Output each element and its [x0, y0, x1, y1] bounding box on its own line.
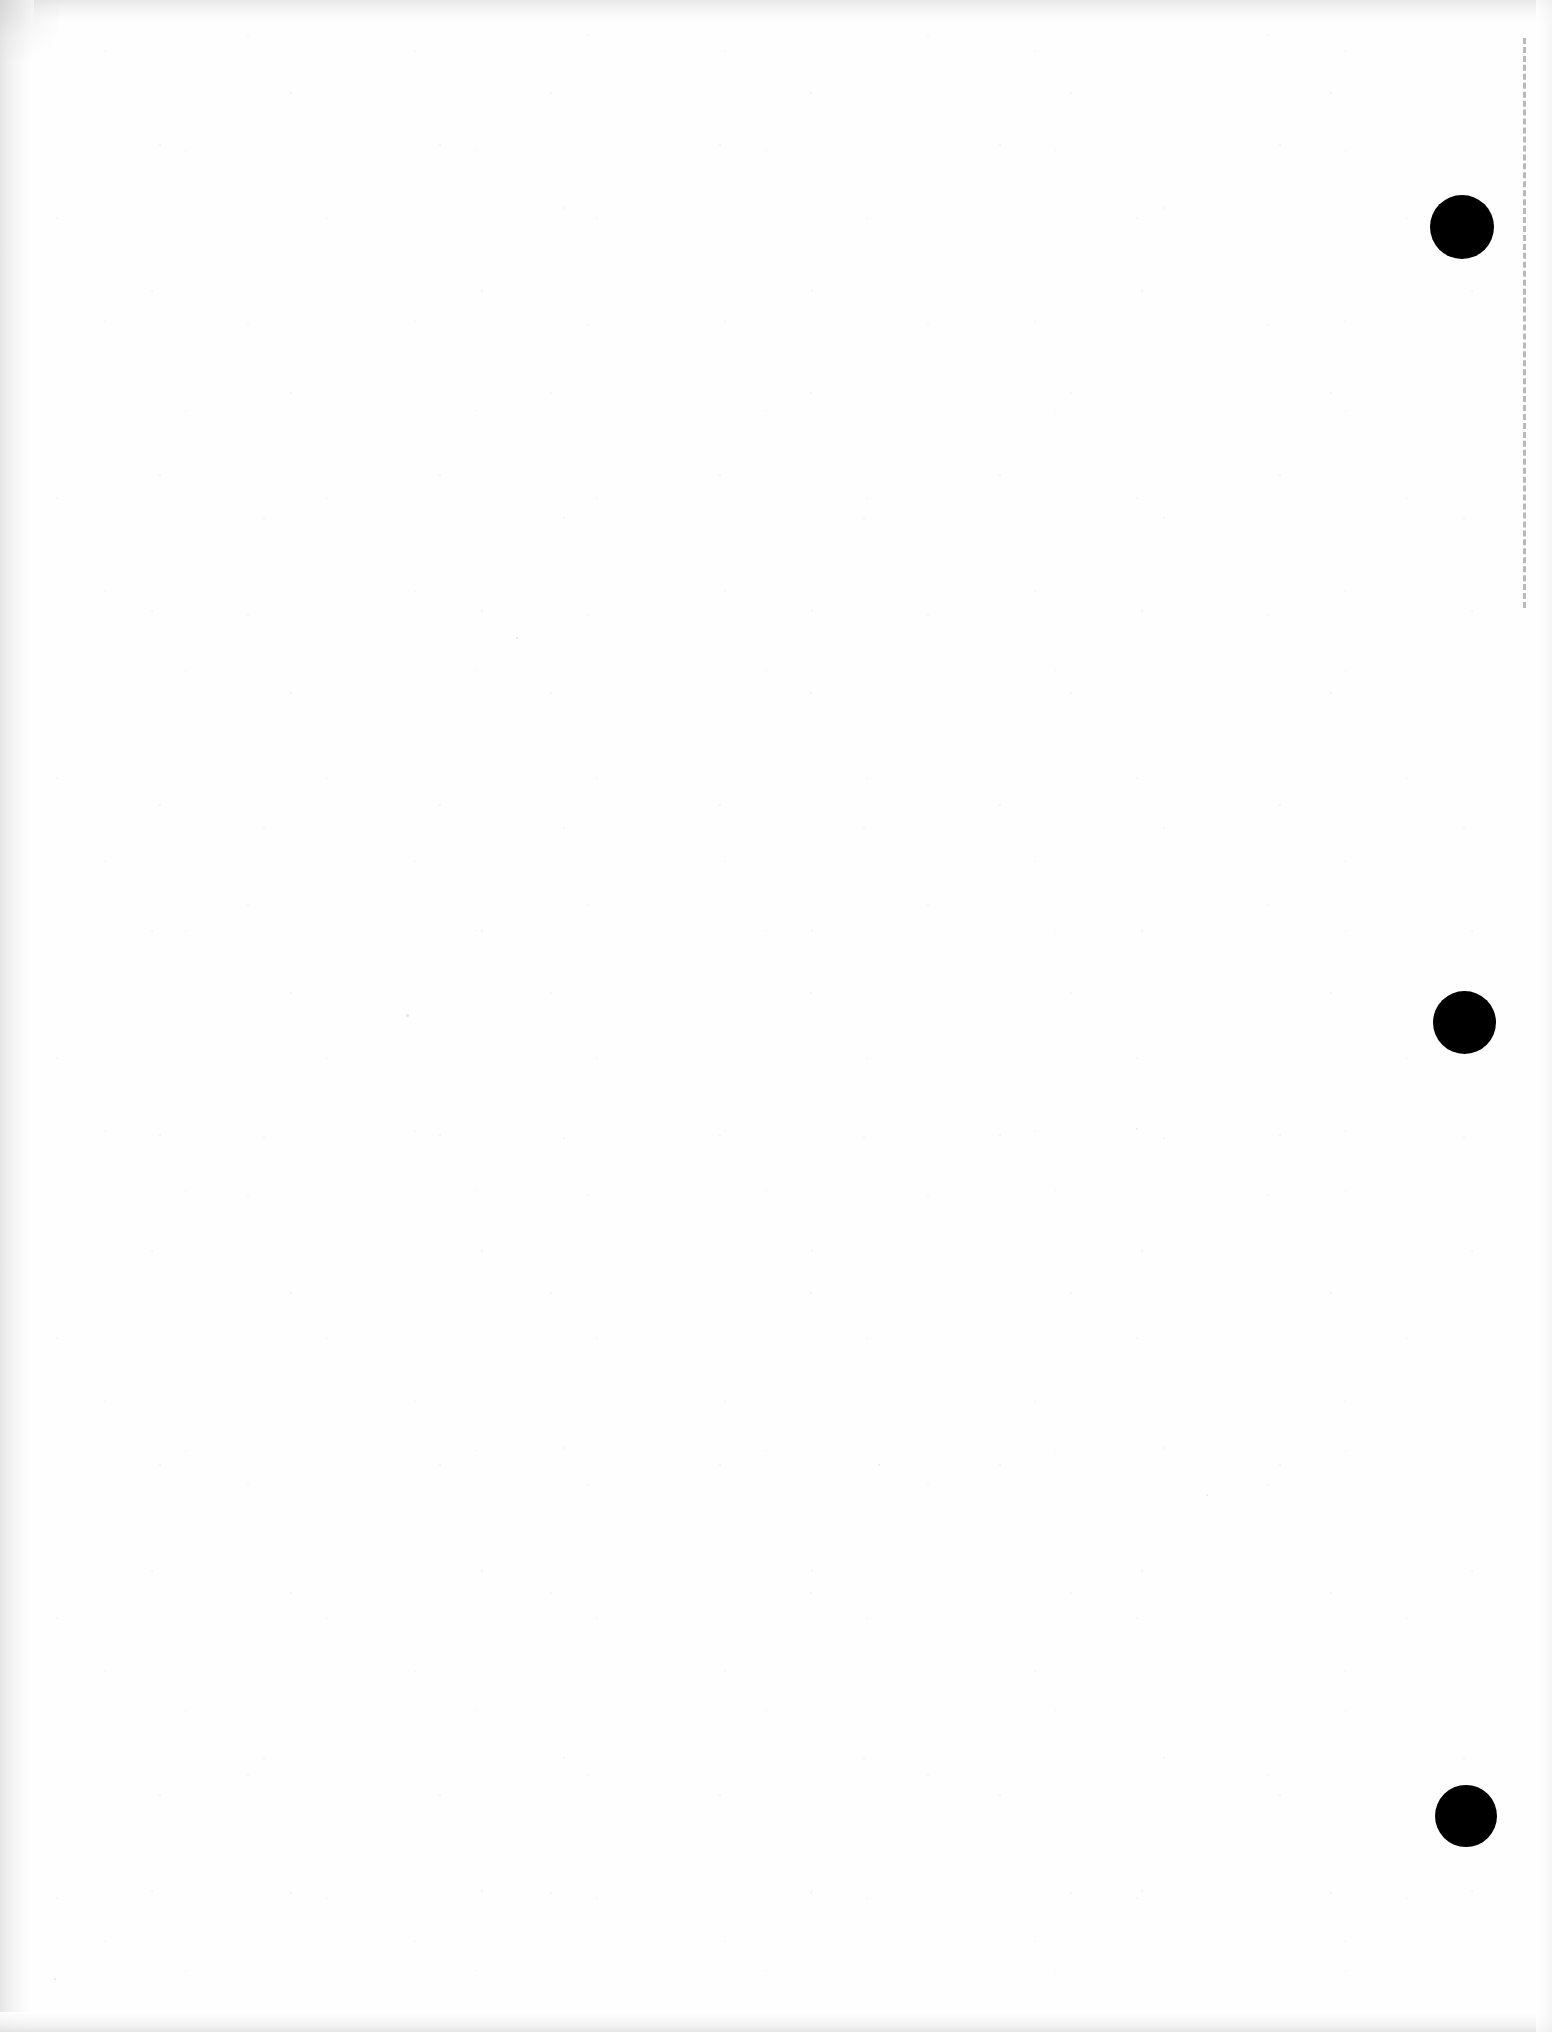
middle-punch-hole-mark — [1433, 991, 1496, 1054]
scan-edge-shadow-right — [1536, 0, 1552, 2032]
scan-edge-shadow-bottom — [0, 2012, 1552, 2032]
scan-edge-shadow-top — [0, 0, 1552, 26]
scanned-document-page — [0, 0, 1552, 2032]
page-body-text — [60, 60, 1440, 1960]
scan-speck — [54, 1978, 56, 1980]
scan-edge-shadow-left — [0, 0, 34, 2032]
scan-edge-corner-top-left — [0, 0, 60, 60]
right-margin-dashed-line — [1523, 38, 1526, 608]
bottom-punch-hole-mark — [1435, 1785, 1497, 1847]
